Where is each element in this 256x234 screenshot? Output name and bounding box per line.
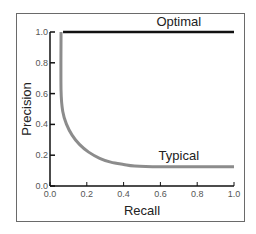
x-tick-label: 1.0 bbox=[228, 189, 241, 199]
series-group bbox=[61, 32, 234, 167]
y-tick-label: 1.0 bbox=[35, 27, 48, 37]
x-tick-label: 0.8 bbox=[191, 189, 204, 199]
y-tick-label: 0.6 bbox=[35, 89, 48, 99]
x-tick-label: 0.4 bbox=[117, 189, 130, 199]
x-tick-label: 0.2 bbox=[81, 189, 94, 199]
x-tick-label: 0.0 bbox=[44, 189, 57, 199]
x-tick-label: 0.6 bbox=[154, 189, 167, 199]
y-tick-label: 0.4 bbox=[35, 119, 48, 129]
series-label-typical: Typical bbox=[159, 148, 200, 163]
y-tick-label: 0.8 bbox=[35, 58, 48, 68]
precision-recall-chart: 0.00.20.40.60.81.00.00.20.40.60.81.0 Rec… bbox=[0, 0, 256, 234]
x-axis-title: Recall bbox=[124, 203, 160, 218]
series-label-optimal: Optimal bbox=[156, 14, 201, 29]
ticks: 0.00.20.40.60.81.00.00.20.40.60.81.0 bbox=[35, 27, 240, 199]
axes bbox=[50, 32, 234, 186]
series-line-typical bbox=[61, 32, 234, 167]
y-tick-label: 0.2 bbox=[35, 150, 48, 160]
y-axis-title: Precision bbox=[19, 82, 34, 135]
